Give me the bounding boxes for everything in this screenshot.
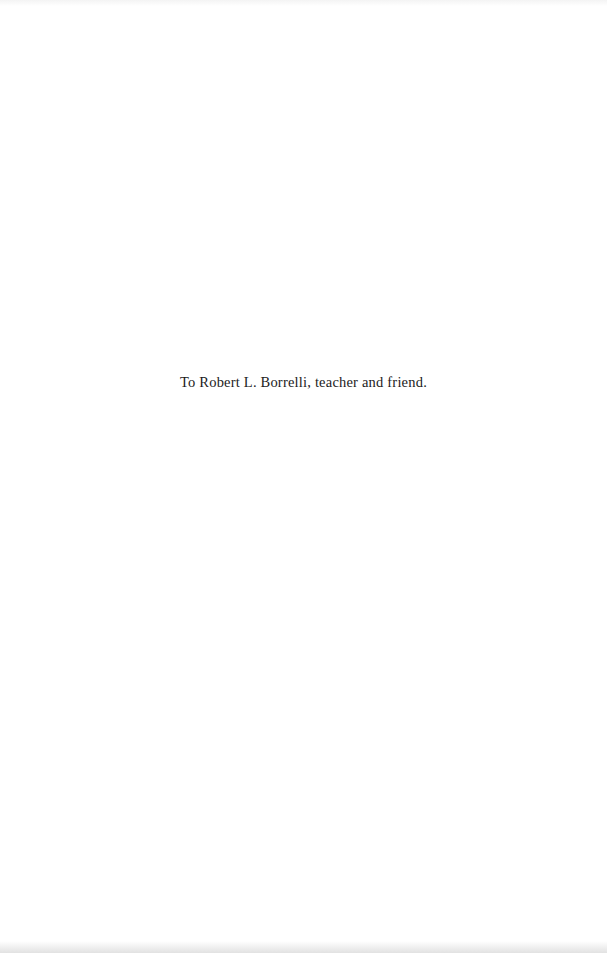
- scan-artifact-bottom: [0, 941, 607, 953]
- dedication-text: To Robert L. Borrelli, teacher and frien…: [0, 374, 607, 391]
- book-page: To Robert L. Borrelli, teacher and frien…: [0, 0, 607, 953]
- scan-artifact-top: [0, 0, 607, 6]
